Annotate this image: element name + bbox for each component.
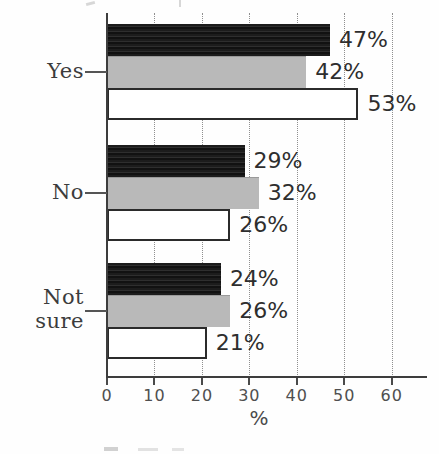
x-tick-mark-50 [343,378,345,385]
value-label-yes-gray: 42% [315,59,364,84]
y-axis-line [106,13,108,377]
x-tick-mark-30 [248,378,250,385]
cut-off-legend-remnant [172,448,184,451]
value-label-not-sure-gray: 26% [239,298,288,323]
bar-no-white [107,209,230,241]
value-label-not-sure-white: 21% [216,330,265,355]
x-axis-title: % [243,406,275,430]
bar-not-sure-white [107,327,207,359]
x-tick-mark-0 [106,378,108,385]
x-tick-label-50: 50 [333,386,355,405]
gridline-60 [392,13,393,377]
bar-no-gray [107,177,259,209]
category-label-not-sure: Not sure [0,285,84,333]
x-tick-label-60: 60 [381,386,403,405]
value-label-no-black: 29% [254,148,303,173]
bar-yes-black [107,24,330,56]
cut-off-legend-remnant [104,447,118,451]
category-tick-not-sure [85,310,107,312]
bar-no-black [107,145,245,177]
category-tick-no [85,192,107,194]
value-label-not-sure-black: 24% [230,266,279,291]
value-label-no-white: 26% [239,212,288,237]
scan-artifact [86,1,95,6]
value-label-yes-black: 47% [339,27,388,52]
x-tick-label-40: 40 [286,386,308,405]
x-tick-mark-40 [296,378,298,385]
category-label-no: No [0,180,84,204]
x-tick-mark-20 [201,378,203,385]
cut-off-legend-remnant [138,448,158,451]
bar-not-sure-gray [107,295,230,327]
x-tick-label-10: 10 [143,386,165,405]
value-label-no-gray: 32% [268,180,317,205]
value-label-yes-white: 53% [367,91,416,116]
bar-not-sure-black [107,263,221,295]
x-tick-mark-10 [153,378,155,385]
bar-yes-gray [107,56,306,88]
x-tick-label-20: 20 [191,386,213,405]
scan-artifact [179,0,181,7]
x-tick-label-0: 0 [101,386,112,405]
bar-yes-white [107,88,358,120]
category-tick-yes [85,71,107,73]
bar-chart: 47%42%53%29%32%26%24%26%21% YesNoNot sur… [0,0,439,454]
category-label-yes: Yes [0,59,84,83]
x-tick-mark-60 [391,378,393,385]
x-tick-label-30: 30 [238,386,260,405]
